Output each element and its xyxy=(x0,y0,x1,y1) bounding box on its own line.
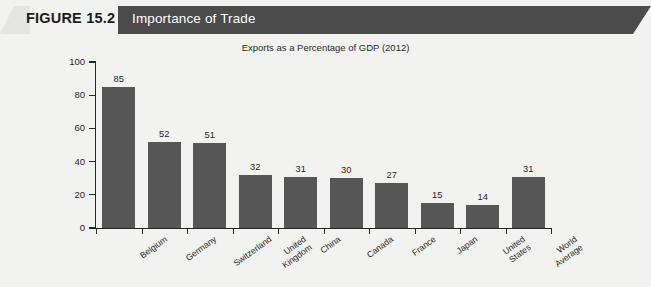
y-axis-tick xyxy=(89,61,95,62)
bar xyxy=(512,177,545,228)
x-axis-label-line: China xyxy=(318,234,342,255)
x-axis-tick xyxy=(551,229,552,234)
x-axis-label: Japan xyxy=(455,234,480,256)
y-axis-line xyxy=(95,61,96,229)
bar-value-label: 85 xyxy=(99,74,139,84)
bar-value-label: 15 xyxy=(417,190,457,200)
y-axis-tick xyxy=(89,161,95,162)
bar xyxy=(193,143,226,228)
bar xyxy=(330,178,363,228)
x-axis-label-line: Germany xyxy=(184,234,218,263)
x-axis-label: China xyxy=(318,234,342,255)
x-axis-label-line: France xyxy=(410,234,438,258)
bar-value-label: 31 xyxy=(508,164,548,174)
bar-chart: 020406080100 85525132313027151431 Belgiu… xyxy=(0,0,651,287)
x-axis-tick xyxy=(506,229,507,234)
bar-value-label: 32 xyxy=(235,162,275,172)
bar xyxy=(466,205,499,228)
y-axis-tick xyxy=(89,95,95,96)
bar xyxy=(102,87,135,228)
x-axis-tick xyxy=(142,229,143,234)
x-axis-label-line: Switzerland xyxy=(231,234,273,268)
x-axis-label: Canada xyxy=(365,234,395,260)
bar xyxy=(239,175,272,228)
y-axis-tick xyxy=(89,194,95,195)
bar-value-label: 30 xyxy=(326,165,366,175)
x-axis-tick xyxy=(369,229,370,234)
x-axis-label: UnitedStates xyxy=(500,234,532,265)
bar-value-label: 31 xyxy=(281,164,321,174)
bar-value-label: 51 xyxy=(190,130,230,140)
x-axis-tick xyxy=(460,229,461,234)
x-axis-label-line: Japan xyxy=(455,234,480,256)
bar-value-label: 52 xyxy=(144,129,184,139)
x-axis-label-line: Canada xyxy=(365,234,395,260)
x-axis-tick xyxy=(187,229,188,234)
y-axis-tick-label: 0 xyxy=(55,222,85,233)
x-axis-label: Belgium xyxy=(138,234,169,260)
y-axis-tick xyxy=(89,227,95,228)
y-axis-tick-label: 100 xyxy=(55,56,85,67)
x-axis-tick xyxy=(415,229,416,234)
bar xyxy=(421,203,454,228)
bar xyxy=(375,183,408,228)
bar-value-label: 27 xyxy=(372,170,412,180)
x-axis-tick xyxy=(233,229,234,234)
bar-value-label: 14 xyxy=(463,192,503,202)
y-axis-tick-label: 40 xyxy=(55,156,85,167)
x-axis-label: WorldAverage xyxy=(547,234,585,269)
x-axis-label-line: Belgium xyxy=(138,234,169,260)
x-axis-label: Germany xyxy=(184,234,218,263)
y-axis-tick-label: 20 xyxy=(55,189,85,200)
y-axis-tick-label: 60 xyxy=(55,122,85,133)
bar xyxy=(148,142,181,228)
x-axis-label: Switzerland xyxy=(231,234,273,268)
bar xyxy=(284,177,317,228)
y-axis-tick xyxy=(89,128,95,129)
x-axis-tick xyxy=(278,229,279,234)
x-axis-tick xyxy=(96,229,97,234)
x-axis-label: UnitedKingdom xyxy=(275,234,314,270)
x-axis-label: France xyxy=(410,234,438,258)
y-axis-tick-label: 80 xyxy=(55,89,85,100)
x-axis-tick xyxy=(324,229,325,234)
